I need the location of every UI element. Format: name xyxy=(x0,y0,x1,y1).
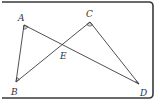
segment-BC xyxy=(16,22,90,82)
label-C: C xyxy=(86,9,93,19)
geometry-figure: A B C D E xyxy=(0,0,160,110)
segment-CD xyxy=(90,22,139,84)
segment-AB xyxy=(16,25,24,82)
figure-frame xyxy=(2,2,153,98)
label-B: B xyxy=(10,87,18,97)
label-A: A xyxy=(17,13,25,23)
label-D: D xyxy=(139,88,147,98)
label-E: E xyxy=(59,51,67,61)
segment-AD xyxy=(24,25,139,84)
